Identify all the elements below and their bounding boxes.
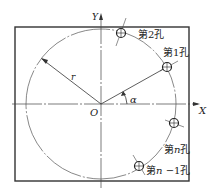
hole-n-label: 第n孔 [164,143,190,155]
hole-n-minus-1-label: 第n −1孔 [146,164,190,176]
hole-1-label: 第1孔 [163,46,189,58]
hole-1-marker [160,61,178,72]
hole-n-minus-1-marker [133,155,145,175]
x-axis-label: X [198,105,207,116]
y-axis-label: Y [92,12,99,22]
hole-2-marker [116,18,126,46]
angle-arrow-icon [121,91,126,96]
origin-label: O [90,107,98,118]
bolt-hole-circle-diagram: Y X O r α 第2孔 第1孔 第n孔 第n −1孔 [0,0,215,196]
angle-label: α [130,94,137,105]
y-axis-arrow-icon [99,13,103,20]
radius-label: r [71,72,76,82]
hole-n-marker [165,119,184,128]
hole-2-label: 第2孔 [138,28,164,40]
